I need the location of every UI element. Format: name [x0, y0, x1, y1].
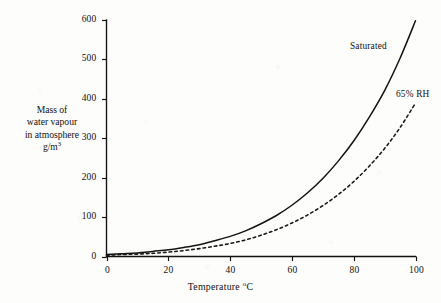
y-axis-unit-text: g/m: [43, 141, 58, 152]
x-axis-tick-label: 100: [397, 265, 437, 275]
y-axis-title: Mass of water vapour in atmosphere g/m3: [8, 104, 96, 154]
y-axis-tick-label: 200: [61, 172, 97, 182]
x-axis-title-text: Temperature: [188, 281, 243, 292]
y-axis-title-line-2: water vapour: [27, 116, 77, 127]
y-axis-tick-label: 600: [61, 14, 97, 24]
x-axis-tick-label: 60: [273, 265, 313, 275]
y-axis-tick-label: 100: [61, 211, 97, 221]
x-axis-tick-label: 20: [149, 265, 189, 275]
y-axis-unit-exponent: 3: [58, 140, 61, 147]
y-axis-title-line-3: in atmosphere: [25, 129, 79, 140]
y-axis-title-unit: g/m3: [43, 141, 61, 153]
series-line-65-rh: [107, 103, 416, 255]
series-label-65-rh: 65% RH: [396, 89, 429, 99]
x-axis-title-unit: C: [246, 281, 253, 292]
x-axis-title: Temperature oC: [0, 281, 441, 292]
x-axis-tick-label: 80: [335, 265, 375, 275]
chart-page: 0100200300400500600 020406080100 Mass of…: [0, 0, 441, 303]
y-axis-title-line-1: Mass of: [37, 104, 68, 115]
y-axis-tick-label: 0: [61, 251, 97, 261]
series-label-saturated: Saturated: [350, 41, 387, 51]
x-axis-tick-label: 40: [211, 265, 251, 275]
series-line-saturated: [107, 21, 416, 255]
y-axis-tick-label: 400: [61, 93, 97, 103]
x-axis-tick-label: 0: [88, 265, 128, 275]
y-axis-tick-label: 500: [61, 53, 97, 63]
